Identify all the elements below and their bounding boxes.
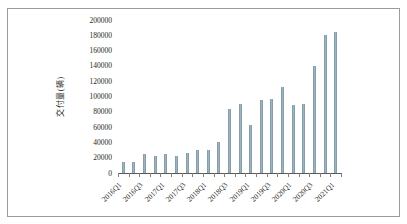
x-axis-tick-mark: [341, 173, 342, 177]
y-axis-tick-label: 120000: [70, 77, 112, 86]
bar-2016Q4: [154, 156, 157, 173]
x-axis-tick-mark: [320, 173, 321, 177]
x-axis-tick-mark: [256, 173, 257, 177]
y-axis-tick-label: 160000: [70, 46, 112, 55]
x-axis-tick-mark: [288, 173, 289, 177]
bar-2020Q3: [313, 66, 316, 173]
x-axis-tick-mark: [118, 173, 119, 177]
bar-2019Q2: [260, 100, 263, 173]
bar-2018Q1: [207, 150, 210, 173]
bar-2017Q4: [196, 150, 199, 173]
bar-2019Q3: [270, 99, 273, 173]
y-axis-title: 交付量(辆): [52, 57, 66, 135]
x-axis-tick-mark: [277, 173, 278, 177]
x-axis-tick-mark: [150, 173, 151, 177]
y-axis-tick-label: 180000: [70, 31, 112, 40]
x-axis-tick-mark: [330, 173, 331, 177]
bar-2016Q1: [122, 162, 125, 173]
y-axis-tick-label: 140000: [70, 61, 112, 70]
y-axis-tick-label: 40000: [70, 138, 112, 147]
x-axis-tick-mark: [214, 173, 215, 177]
bar-2020Q4: [324, 35, 327, 173]
y-axis-tick-label: 20000: [70, 153, 112, 162]
x-axis-tick-mark: [267, 173, 268, 177]
x-axis-tick-mark: [160, 173, 161, 177]
y-axis-tick-label: 60000: [70, 123, 112, 132]
bar-2019Q1: [249, 125, 252, 173]
x-axis-tick-mark: [182, 173, 183, 177]
bar-2017Q2: [175, 156, 178, 173]
x-axis-tick-mark: [203, 173, 204, 177]
bar-2017Q3: [186, 153, 189, 173]
chart-canvas: 交付量(辆) 020000400006000080000100000120000…: [0, 0, 407, 224]
bar-2018Q4: [239, 104, 242, 173]
bar-2020Q2: [302, 104, 305, 173]
x-axis-tick-mark: [235, 173, 236, 177]
x-axis-tick-mark: [309, 173, 310, 177]
x-axis-tick-mark: [224, 173, 225, 177]
x-axis-tick-mark: [192, 173, 193, 177]
y-axis-tick-label: 80000: [70, 107, 112, 116]
y-axis-title-text: 交付量(辆): [54, 76, 65, 116]
y-axis-tick-label: 100000: [70, 92, 112, 101]
bar-2020Q1: [292, 105, 295, 173]
y-axis-tick-label: 200000: [70, 16, 112, 25]
x-axis-tick-mark: [129, 173, 130, 177]
x-axis-tick-mark: [171, 173, 172, 177]
x-axis-tick-mark: [299, 173, 300, 177]
bar-2017Q1: [164, 154, 167, 173]
bar-2016Q2: [132, 162, 135, 173]
bar-2018Q3: [228, 109, 231, 173]
y-axis-tick-label: 0: [70, 169, 112, 178]
x-axis-tick-mark: [139, 173, 140, 177]
bar-2021Q1: [334, 32, 337, 173]
bar-2019Q4: [281, 87, 284, 173]
bar-2016Q3: [143, 154, 146, 173]
x-axis-tick-mark: [245, 173, 246, 177]
bar-2018Q2: [217, 142, 220, 173]
